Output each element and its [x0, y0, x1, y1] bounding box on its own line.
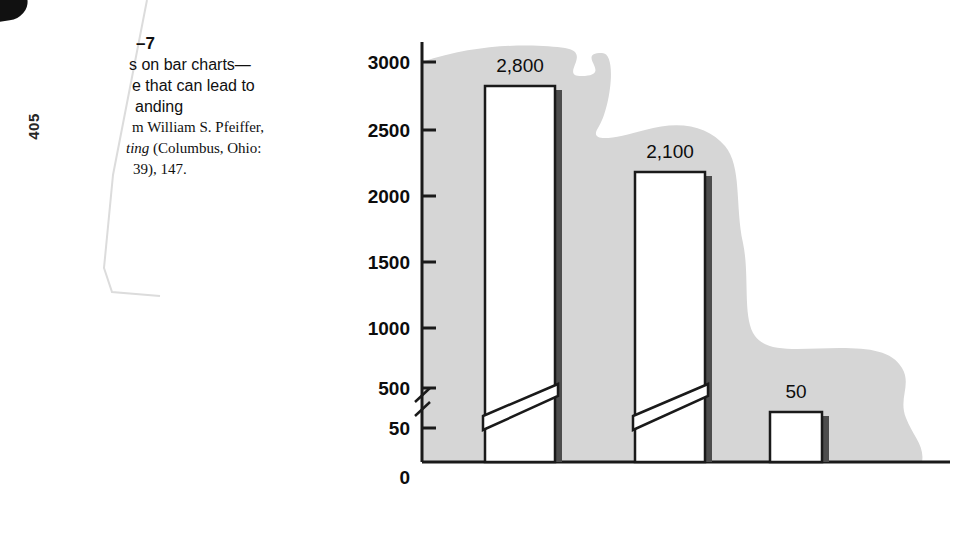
figure-number: –7: [136, 34, 350, 54]
y-tick-label-1500: 1500: [368, 252, 410, 273]
bar-2[interactable]: 2,100: [633, 141, 712, 462]
y-tick-label-2500: 2500: [368, 120, 410, 141]
source-line-1: m William S. Pfeiffer,: [132, 117, 350, 138]
y-tick-label-3000: 3000: [368, 52, 410, 73]
y-tick-label-500: 500: [378, 378, 410, 399]
bar-1[interactable]: 2,800: [483, 55, 562, 462]
y-tick-label-2000: 2000: [368, 186, 410, 207]
source-line-2: ting (Columbus, Ohio:: [126, 138, 350, 159]
y-tick-label-1000: 1000: [368, 318, 410, 339]
bar-3-value-label: 50: [785, 381, 806, 402]
y-tick-label-50: 50: [389, 418, 410, 439]
scanned-page: 405 –7 s on bar charts— e that can lead …: [0, 0, 972, 539]
page-corner-artifact-icon: [0, 0, 30, 22]
figure-caption: –7 s on bar charts— e that can lead to a…: [120, 34, 350, 180]
bar-chart: 3000 2500 2000 1500 1000 500 50 0 2,800 …: [350, 18, 972, 518]
bar-1-value-label: 2,800: [496, 55, 544, 76]
y-tick-label-0: 0: [399, 467, 410, 488]
caption-line-2: e that can lead to: [132, 75, 350, 96]
caption-line-3: anding: [135, 96, 350, 117]
source-title-italic: ting: [126, 140, 149, 156]
bar-2-value-label: 2,100: [646, 141, 694, 162]
bar-3-body: [770, 412, 822, 462]
page-number: 405: [25, 90, 42, 164]
source-line-2-rest: (Columbus, Ohio:: [149, 140, 261, 156]
source-line-3: 39), 147.: [133, 159, 350, 180]
caption-line-1: s on bar charts—: [129, 54, 350, 75]
